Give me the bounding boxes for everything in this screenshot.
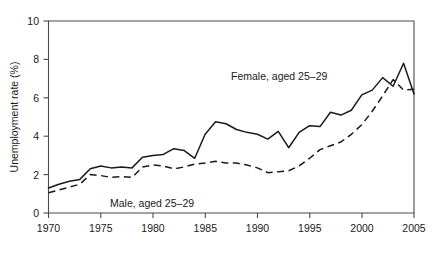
x-tick-label-1975: 1975 xyxy=(89,222,113,234)
y-tick-label-0: 0 xyxy=(33,207,39,219)
x-tick-label-1995: 1995 xyxy=(298,222,322,234)
x-tick-label-1985: 1985 xyxy=(194,222,218,234)
y-tick-label-6: 6 xyxy=(33,92,39,104)
y-tick-label-2: 2 xyxy=(33,169,39,181)
x-tick-label-1990: 1990 xyxy=(246,222,270,234)
chart-figure: 0 2 4 6 8 10 Unemployment rate (%) 1970 … xyxy=(0,0,439,254)
x-tick-label-2000: 2000 xyxy=(350,222,374,234)
x-tick-label-1980: 1980 xyxy=(141,222,165,234)
x-tick-label-1970: 1970 xyxy=(37,222,61,234)
y-tick-label-8: 8 xyxy=(33,53,39,65)
series-annotation-male: Male, aged 25–29 xyxy=(110,197,194,209)
series-annotation-female: Female, aged 25–29 xyxy=(231,70,327,82)
x-tick-label-2005: 2005 xyxy=(402,222,426,234)
chart-background xyxy=(0,0,439,254)
y-tick-label-10: 10 xyxy=(27,15,39,27)
y-tick-label-4: 4 xyxy=(33,130,39,142)
y-axis-title: Unemployment rate (%) xyxy=(8,62,20,173)
unemployment-rate-line-chart: 0 2 4 6 8 10 Unemployment rate (%) 1970 … xyxy=(0,0,439,254)
